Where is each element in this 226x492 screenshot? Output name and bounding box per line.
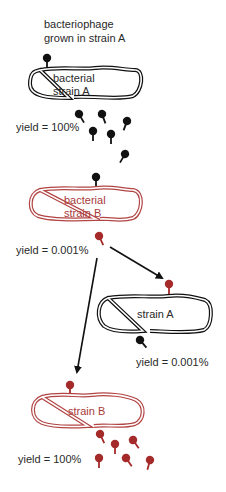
- cell-strain-a-right: strain A: [99, 295, 211, 332]
- cell-strain-b-bottom: strain B: [33, 394, 143, 426]
- cell-2-label-line-1: bacterial: [64, 194, 106, 206]
- infecting-phage-red-icon: [66, 381, 74, 395]
- yield-1-label: yield = 100%: [16, 121, 80, 133]
- cell-1-label-line-1: bacterial: [53, 72, 95, 84]
- title-line-1: bacteriophage: [44, 18, 114, 30]
- progeny-phages-red: [94, 428, 155, 470]
- phage-restriction-diagram: bacteriophage grown in strain A bacteria…: [0, 0, 226, 492]
- yield-3-label: yield = 0.001%: [136, 356, 209, 368]
- infecting-phage-icon: [92, 173, 100, 187]
- cell-4-label: strain B: [68, 405, 105, 417]
- title-line-2: grown in strain A: [44, 32, 126, 44]
- title-label: bacteriophage grown in strain A: [44, 18, 126, 44]
- arrow-to-strain-b: [77, 258, 97, 372]
- cell-strain-a-top: bacterial strain A: [30, 67, 141, 98]
- progeny-phages-black: [73, 108, 132, 164]
- infecting-phage-icon: [43, 54, 51, 68]
- infecting-phage-red-icon: [165, 280, 173, 294]
- yield-4-label: yield = 100%: [18, 453, 82, 465]
- cell-strain-b-middle: bacterial strain B: [31, 187, 141, 219]
- cell-1-label-line-2: strain A: [53, 85, 90, 97]
- cell-2-label-line-2: strain B: [64, 207, 101, 219]
- progeny-phage-red-icon: [93, 230, 107, 246]
- yield-2-label: yield = 0.001%: [16, 244, 89, 256]
- arrow-to-strain-a: [110, 247, 162, 278]
- progeny-phage-black-icon: [134, 334, 150, 350]
- cell-3-label: strain A: [137, 308, 174, 320]
